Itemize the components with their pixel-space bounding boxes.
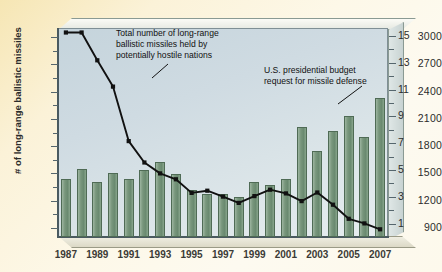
line-data-point (300, 199, 304, 203)
line-data-point (284, 191, 288, 195)
line-series-overlay (0, 0, 442, 272)
line-data-point (362, 221, 366, 225)
leader-line-missiles (152, 64, 168, 78)
missile-count-markers (64, 30, 382, 231)
annotation-budget-bars: U.S. presidential budget request for mis… (264, 65, 367, 87)
line-data-point (142, 160, 146, 164)
line-data-point (331, 203, 335, 207)
line-data-point (315, 190, 319, 194)
line-data-point (268, 188, 272, 192)
line-data-point (252, 194, 256, 198)
line-data-point (190, 191, 194, 195)
line-data-point (221, 195, 225, 199)
line-data-point (174, 177, 178, 181)
line-data-point (237, 201, 241, 205)
line-data-point (127, 139, 131, 143)
annotation-missile-line: Total number of long-range ballistic mis… (116, 28, 219, 62)
leader-line-budget (338, 86, 362, 104)
line-data-point (378, 227, 382, 231)
line-data-point (64, 30, 68, 34)
line-data-point (158, 171, 162, 175)
line-data-point (111, 85, 115, 89)
line-data-point (95, 58, 99, 62)
chart-figure: 9001200150018002100240027003000 13579111… (0, 0, 442, 272)
line-data-point (80, 30, 84, 34)
line-data-point (205, 189, 209, 193)
line-data-point (347, 217, 351, 221)
missile-count-line (66, 33, 380, 230)
